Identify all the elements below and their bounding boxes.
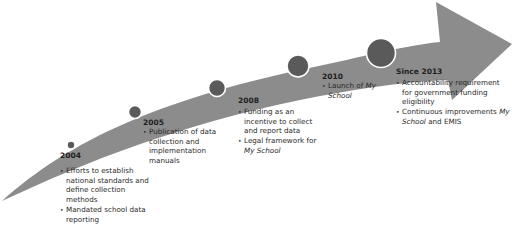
bullet: Launch of My School — [322, 81, 382, 100]
bullet: Continuous improvements My School and EM… — [396, 107, 510, 126]
milestone-2013: Since 2013 Accountability requirement fo… — [396, 67, 510, 127]
year-label: Since 2013 — [396, 67, 510, 76]
dot-2004 — [67, 141, 75, 149]
bullet: Mandated school data reporting — [60, 205, 152, 224]
bullet: Funding as an incentive to collect and r… — [238, 107, 320, 136]
milestone-2004: 2004 Efforts to establish national stand… — [60, 151, 152, 224]
bullet: Accountability requirement for governmen… — [396, 78, 510, 107]
dot-2008 — [209, 80, 226, 97]
bullet: Legal framework for My School — [238, 136, 320, 155]
milestone-2005: 2005 Publication of data collection and … — [143, 118, 223, 166]
year-label: 2010 — [322, 72, 382, 81]
year-label: 2005 — [143, 118, 223, 127]
year-label: 2008 — [238, 96, 320, 105]
dot-2005 — [129, 106, 142, 119]
dot-2013 — [367, 39, 396, 68]
bullet: Efforts to establish national standards … — [60, 166, 152, 205]
milestone-2008: 2008 Funding as an incentive to collect … — [238, 96, 320, 156]
dot-2010 — [287, 55, 309, 77]
year-label: 2004 — [60, 151, 152, 160]
milestone-2010: 2010 Launch of My School — [322, 72, 382, 100]
bullet: Publication of data collection and imple… — [143, 127, 223, 166]
